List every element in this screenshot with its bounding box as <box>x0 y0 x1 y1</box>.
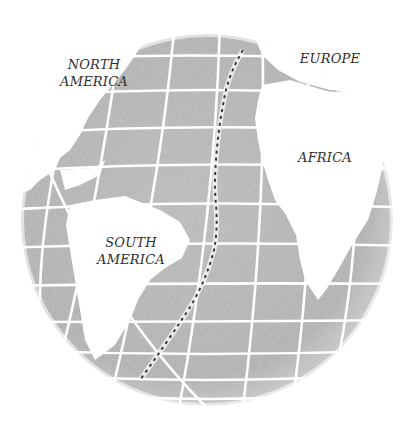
globe-diagram: NORTH AMERICA EUROPE AFRICA SOUTH AMERIC… <box>0 0 414 435</box>
label-south-america: SOUTH AMERICA <box>88 234 174 268</box>
label-north-america: NORTH AMERICA <box>48 56 140 90</box>
label-europe-line1: EUROPE <box>290 50 370 67</box>
label-south-america-line1: SOUTH <box>88 234 174 251</box>
label-africa-line1: AFRICA <box>285 149 365 166</box>
label-south-america-line2: AMERICA <box>88 251 174 268</box>
label-africa: AFRICA <box>285 149 365 166</box>
label-europe: EUROPE <box>290 50 370 67</box>
label-north-america-line1: NORTH <box>48 56 140 73</box>
label-north-america-line2: AMERICA <box>48 73 140 90</box>
